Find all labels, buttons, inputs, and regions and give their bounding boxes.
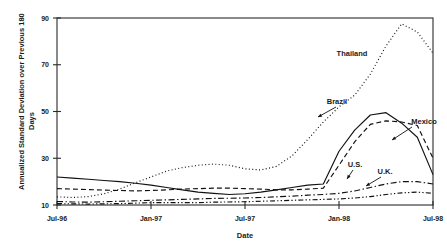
series-label-text: U.K. (378, 167, 393, 176)
series-line-us (57, 182, 433, 203)
x-tick-label: Jul-98 (423, 215, 443, 222)
x-axis: Jul-96Jan-97Jul-97Jan-98Jul-98 (47, 201, 443, 222)
series-label-text: U.S. (348, 160, 363, 169)
plot-frame (57, 18, 433, 205)
series-label-text: Brazil (327, 97, 347, 106)
y-tick-label: 30 (41, 155, 49, 162)
volatility-line-chart: Annualized Standard Deviation over Previ… (0, 0, 447, 249)
annotation-uk: U.K. (366, 167, 393, 186)
y-tick-label: 10 (41, 202, 49, 209)
series-line-brazil (57, 113, 433, 195)
annotation-us: U.S. (347, 160, 362, 179)
x-tick-label: Jul-96 (47, 215, 67, 222)
chart-container: Annualized Standard Deviation over Previ… (0, 0, 447, 249)
series-line-mexico (57, 121, 433, 191)
series-label-text: Thailand (337, 49, 368, 58)
y-axis: 1030507090 (41, 15, 61, 209)
y-axis-title-group: Annualized Standard Deviation over Previ… (17, 13, 36, 190)
y-axis-title-line1: Annualized Standard Deviation over Previ… (17, 13, 26, 190)
series-label-text: Mexico (411, 117, 437, 126)
annotation-brazil: Brazil (318, 97, 347, 117)
annotation-mexico: Mexico (392, 117, 437, 140)
y-tick-label: 70 (41, 61, 49, 68)
x-axis-title: Date (237, 231, 253, 240)
x-tick-label: Jan-97 (140, 215, 162, 222)
y-tick-label: 50 (41, 108, 49, 115)
series-layer (57, 24, 433, 204)
y-tick-label: 90 (41, 15, 49, 22)
annotation-thailand: Thailand (337, 49, 368, 58)
x-tick-label: Jul-97 (235, 215, 255, 222)
x-tick-label: Jan-98 (328, 215, 350, 222)
y-axis-title-line2: Days (27, 112, 36, 130)
annotation-layer: ThailandBrazilMexicoU.S.U.K. (318, 49, 437, 186)
